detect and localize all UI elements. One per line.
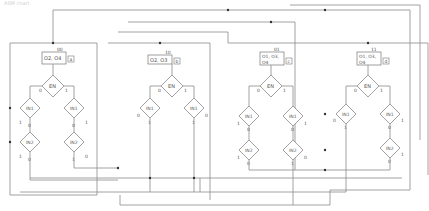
svg-text:IN1: IN1 xyxy=(26,106,34,111)
svg-text:0: 0 xyxy=(39,88,42,93)
svg-text:IN2: IN2 xyxy=(386,146,394,151)
svg-text:IN2: IN2 xyxy=(289,148,297,153)
svg-text:1: 1 xyxy=(237,155,240,160)
svg-text:0: 0 xyxy=(205,113,208,118)
svg-text:IN1: IN1 xyxy=(386,112,394,117)
svg-text:0: 0 xyxy=(291,127,294,132)
svg-text:0: 0 xyxy=(247,161,250,166)
svg-text:00: 00 xyxy=(57,47,63,52)
svg-text:1: 1 xyxy=(148,120,151,125)
junction-dots xyxy=(9,9,369,179)
svg-text:1: 1 xyxy=(304,121,307,126)
svg-text:b: b xyxy=(176,59,179,64)
svg-text:O2, O3: O2, O3 xyxy=(150,57,167,63)
svg-text:O2, O4: O2, O4 xyxy=(44,55,61,61)
svg-text:11: 11 xyxy=(371,47,377,52)
svg-text:1: 1 xyxy=(19,120,22,125)
svg-text:EN: EN xyxy=(364,83,371,89)
svg-text:EN: EN xyxy=(49,83,56,89)
svg-text:0: 0 xyxy=(388,125,391,130)
svg-text:1: 1 xyxy=(344,125,347,130)
svg-text:IN1: IN1 xyxy=(146,106,154,111)
svg-text:01: 01 xyxy=(274,47,280,52)
svg-text:1: 1 xyxy=(401,152,404,157)
svg-text:0: 0 xyxy=(85,154,88,159)
svg-text:0: 0 xyxy=(28,123,31,128)
svg-text:IN2: IN2 xyxy=(70,140,78,145)
state-a: O2, O4 00 a EN 0 1 IN1 IN1 IN2 IN2 1 0 1… xyxy=(19,47,118,180)
svg-text:0: 0 xyxy=(354,88,357,93)
svg-text:a: a xyxy=(70,57,73,62)
svg-text:0: 0 xyxy=(257,88,260,93)
svg-text:0: 0 xyxy=(247,127,250,132)
svg-text:0: 0 xyxy=(304,155,307,160)
svg-text:O1, O3,: O1, O3, xyxy=(262,54,279,59)
svg-text:1: 1 xyxy=(291,161,294,166)
svg-text:d: d xyxy=(385,59,388,64)
svg-text:1: 1 xyxy=(192,120,195,125)
svg-text:1: 1 xyxy=(184,88,187,93)
svg-text:IN2: IN2 xyxy=(26,140,34,145)
svg-text:1: 1 xyxy=(401,118,404,123)
svg-text:IN2: IN2 xyxy=(245,148,253,153)
svg-text:0: 0 xyxy=(137,113,140,118)
svg-text:O4: O4 xyxy=(359,60,366,65)
svg-text:1: 1 xyxy=(19,154,22,159)
svg-text:1: 1 xyxy=(65,88,68,93)
svg-text:IN1: IN1 xyxy=(70,106,78,111)
svg-text:IN1: IN1 xyxy=(342,112,350,117)
svg-text:EN: EN xyxy=(168,83,175,89)
svg-text:1: 1 xyxy=(85,120,88,125)
svg-text:0: 0 xyxy=(72,123,75,128)
svg-text:1: 1 xyxy=(237,121,240,126)
svg-text:IN1: IN1 xyxy=(245,114,253,119)
svg-text:10: 10 xyxy=(165,50,171,55)
svg-text:O1, O3,: O1, O3, xyxy=(359,54,376,59)
state-b: O2, O3 10 b EN 0 1 IN1 IN1 0 1 0 1 xyxy=(137,50,208,192)
svg-text:1: 1 xyxy=(283,88,286,93)
svg-text:0: 0 xyxy=(158,88,161,93)
svg-text:O4: O4 xyxy=(262,60,269,65)
svg-text:0: 0 xyxy=(388,159,391,164)
svg-text:0: 0 xyxy=(333,118,336,123)
svg-text:IN1: IN1 xyxy=(289,114,297,119)
asm-chart: O2, O4 00 a EN 0 1 IN1 IN1 IN2 IN2 1 0 1… xyxy=(0,0,429,211)
svg-text:EN: EN xyxy=(267,83,274,89)
state-c: O1, O3, O4 01 c EN 0 1 IN1 IN1 IN2 IN2 1… xyxy=(237,47,325,205)
svg-text:IN1: IN1 xyxy=(190,106,198,111)
svg-text:1: 1 xyxy=(72,157,75,162)
svg-text:1: 1 xyxy=(380,88,383,93)
svg-text:0: 0 xyxy=(28,157,31,162)
